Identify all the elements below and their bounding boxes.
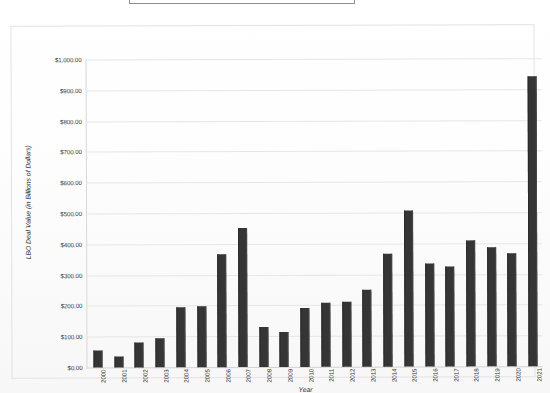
x-axis-title: Year (299, 386, 313, 393)
plot-area (86, 58, 543, 367)
bar-2004 (176, 307, 185, 367)
bar-2011 (321, 303, 330, 367)
bar-2009 (280, 332, 289, 367)
gridline (86, 58, 542, 60)
plot-inner (86, 58, 543, 367)
x-axis-tick-label: 2009 (286, 369, 293, 382)
x-axis-tick-label: 2000 (100, 370, 107, 383)
y-axis-tick-label: $600.00 (16, 179, 82, 186)
y-axis-tick-label: $0.00 (17, 364, 83, 371)
bar-2017 (445, 266, 454, 366)
chart-frame: LBO Deal Value (in Billions of Dollars) … (10, 24, 535, 379)
bar-2010 (300, 308, 309, 367)
bar-2012 (342, 301, 351, 366)
x-axis-tick-label: 2013 (369, 369, 376, 382)
y-axis-tick-label: $100.00 (16, 333, 82, 340)
x-axis-tick-label: 2014 (390, 369, 397, 382)
x-axis-tick-label: 2012 (349, 369, 356, 382)
bar-2021 (528, 77, 538, 367)
x-axis-tick-label: 2021 (535, 368, 542, 381)
y-axis-tick-label: $1,000.00 (16, 56, 82, 63)
x-axis-ticks: 2000200120022003200420052006200720082009… (87, 368, 543, 393)
gridline (86, 151, 542, 153)
y-axis-tick-label: $400.00 (16, 241, 82, 248)
x-axis-tick-label: 2010 (307, 369, 314, 382)
bar-2019 (487, 248, 496, 367)
bar-2020 (508, 253, 517, 366)
gridline (86, 120, 542, 122)
gridline (86, 181, 542, 183)
gridline (86, 212, 542, 214)
y-axis-tick-label: $800.00 (16, 118, 82, 125)
x-axis-tick-label: 2005 (204, 369, 211, 382)
x-axis-tick-label: 2004 (183, 369, 190, 382)
bar-2003 (155, 338, 164, 367)
bar-2008 (259, 327, 268, 367)
x-axis-tick-label: 2011 (328, 369, 335, 382)
x-axis-tick-label: 2007 (245, 369, 252, 382)
bar-2013 (363, 290, 372, 367)
x-axis-tick-label: 2006 (224, 369, 231, 382)
bar-2006 (217, 254, 226, 367)
x-axis-tick-label: 2018 (473, 368, 480, 381)
bar-2014 (383, 254, 392, 367)
x-axis-tick-label: 2020 (514, 368, 521, 381)
bar-2002 (135, 343, 144, 368)
bar-2005 (197, 307, 206, 368)
bar-2016 (425, 263, 434, 366)
x-axis-tick-label: 2008 (266, 369, 273, 382)
bar-2018 (466, 241, 475, 367)
x-axis-tick-label: 2003 (162, 369, 169, 382)
y-axis-tick-label: $200.00 (16, 302, 82, 309)
bar-2007 (238, 228, 247, 367)
bar-2000 (93, 351, 102, 368)
chart-title-box (129, 0, 355, 4)
x-axis-tick-label: 2015 (411, 369, 418, 382)
y-axis-ticks: $0.00$100.00$200.00$300.00$400.00$500.00… (12, 60, 83, 369)
gridline (86, 89, 542, 91)
x-axis-tick-label: 2017 (452, 368, 459, 381)
bar-2001 (114, 357, 123, 368)
x-axis-tick-label: 2019 (494, 368, 501, 381)
y-axis-tick-label: $900.00 (16, 87, 82, 94)
x-axis-tick-label: 2016 (432, 368, 439, 381)
y-axis-tick-label: $700.00 (16, 148, 82, 155)
x-axis-tick-label: 2001 (121, 369, 128, 382)
bar-2015 (404, 211, 413, 367)
x-axis-tick-label: 2002 (141, 369, 148, 382)
y-axis-tick-label: $500.00 (16, 210, 82, 217)
y-axis-tick-label: $300.00 (16, 272, 82, 279)
